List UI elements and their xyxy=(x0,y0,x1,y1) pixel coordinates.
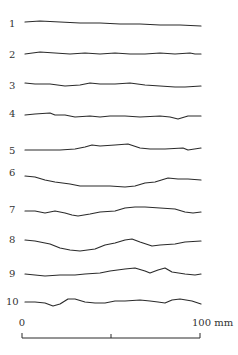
profile-label: 8 xyxy=(9,234,15,245)
profile-line xyxy=(25,21,201,26)
profile-label: 7 xyxy=(9,204,15,215)
profile-label: 4 xyxy=(9,108,15,119)
profile-line xyxy=(25,113,201,119)
profile-line xyxy=(25,176,201,187)
scale-end-label: 100 mm xyxy=(192,317,234,328)
profile-group: 12345678910 xyxy=(6,18,201,307)
profile-line xyxy=(25,207,201,216)
profile-label: 6 xyxy=(9,167,15,178)
profile-line xyxy=(25,239,201,251)
profile-label: 9 xyxy=(9,268,15,279)
scale-bar: 0 100 mm xyxy=(19,317,234,338)
profile-label: 2 xyxy=(9,49,15,60)
profile-label: 10 xyxy=(6,296,19,307)
profile-label: 3 xyxy=(9,80,15,91)
profile-line xyxy=(25,52,201,54)
profile-line xyxy=(25,144,201,150)
profile-line xyxy=(25,268,201,276)
surface-profiles-figure: 12345678910 0 100 mm xyxy=(0,0,238,355)
profile-label: 5 xyxy=(9,145,15,156)
profile-line xyxy=(25,83,201,87)
profile-line xyxy=(25,299,201,306)
scale-start-label: 0 xyxy=(19,317,25,328)
scale-bar-line xyxy=(22,333,200,338)
profile-label: 1 xyxy=(9,18,15,29)
